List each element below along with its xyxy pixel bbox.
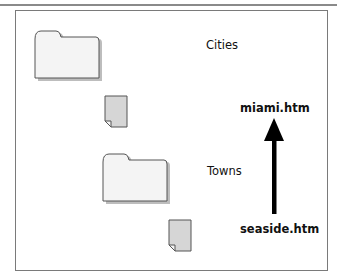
file-label-seaside: seaside.htm — [240, 222, 319, 236]
folder-icon — [32, 29, 104, 83]
folder-label-towns: Towns — [207, 164, 242, 178]
folder-icon — [100, 152, 172, 206]
file-label-miami: miami.htm — [240, 101, 310, 115]
up-arrow-icon — [262, 116, 286, 216]
top-rule — [0, 4, 337, 6]
folder-label-cities: Cities — [206, 38, 238, 52]
document-icon — [102, 94, 130, 130]
document-icon — [166, 218, 194, 254]
